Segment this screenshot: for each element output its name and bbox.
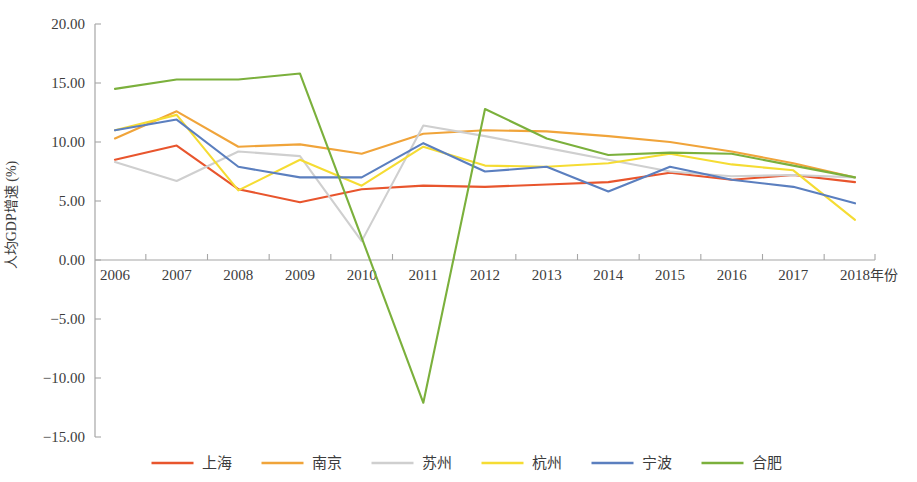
series-line-1 bbox=[115, 111, 855, 177]
legend-label-1: 南京 bbox=[312, 455, 342, 471]
x-tick-label: 2007 bbox=[162, 267, 193, 283]
line-chart: 20.0015.0010.005.000.00−5.00−10.00−15.00… bbox=[0, 0, 917, 482]
series-layer bbox=[115, 74, 855, 403]
legend-label-3: 杭州 bbox=[532, 455, 562, 471]
y-axis-title: 人均GDP增速 (%) bbox=[4, 160, 20, 269]
x-tick-label: 2008 bbox=[223, 267, 253, 283]
x-tick-label: 2009 bbox=[285, 267, 315, 283]
y-tick-label: 20.00 bbox=[51, 16, 85, 32]
x-tick-label: 2006 bbox=[100, 267, 131, 283]
x-axis-ticks: 2006200720082009201020112012201320142015… bbox=[100, 254, 875, 283]
x-tick-label: 2014 bbox=[593, 267, 624, 283]
x-tick-label: 2015 bbox=[655, 267, 685, 283]
series-line-2 bbox=[115, 125, 855, 241]
x-tick-label: 2016 bbox=[717, 267, 748, 283]
y-axis-ticks: 20.0015.0010.005.000.00−5.00−10.00−15.00 bbox=[43, 16, 101, 445]
x-tick-label: 2018 bbox=[840, 267, 870, 283]
series-line-4 bbox=[115, 120, 855, 204]
y-tick-label: 15.00 bbox=[51, 75, 85, 91]
y-tick-label: −15.00 bbox=[43, 429, 85, 445]
x-tick-label: 2010 bbox=[347, 267, 377, 283]
x-tick-label: 2017 bbox=[778, 267, 809, 283]
chart-svg: 20.0015.0010.005.000.00−5.00−10.00−15.00… bbox=[0, 0, 917, 482]
y-tick-label: −10.00 bbox=[43, 370, 85, 386]
y-axis-group: 20.0015.0010.005.000.00−5.00−10.00−15.00 bbox=[43, 16, 101, 445]
series-line-5 bbox=[115, 74, 855, 403]
y-tick-label: −5.00 bbox=[50, 311, 85, 327]
x-tick-label: 2013 bbox=[532, 267, 562, 283]
x-axis-group: 2006200720082009201020112012201320142015… bbox=[95, 254, 875, 283]
y-tick-label: 0.00 bbox=[59, 252, 85, 268]
legend-label-0: 上海 bbox=[202, 455, 232, 471]
y-tick-label: 5.00 bbox=[59, 193, 85, 209]
legend-label-4: 宁波 bbox=[642, 455, 672, 471]
y-tick-label: 10.00 bbox=[51, 134, 85, 150]
chart-legend: 上海南京苏州杭州宁波合肥 bbox=[152, 455, 782, 471]
x-axis-title: 年份 bbox=[870, 268, 898, 283]
x-tick-label: 2012 bbox=[470, 267, 500, 283]
legend-label-5: 合肥 bbox=[752, 455, 782, 471]
legend-label-2: 苏州 bbox=[422, 455, 452, 471]
x-tick-label: 2011 bbox=[409, 267, 438, 283]
